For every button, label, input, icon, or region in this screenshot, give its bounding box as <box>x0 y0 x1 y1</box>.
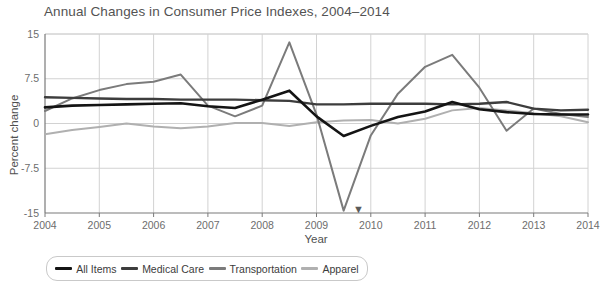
x-tick-label: 2006 <box>142 219 166 231</box>
x-tick-label: 2011 <box>414 219 437 231</box>
y-tick-label: -15 <box>24 207 39 219</box>
legend-label: Apparel <box>322 263 358 275</box>
x-tick-label: 2009 <box>305 219 329 231</box>
x-tick-label: 2008 <box>251 219 275 231</box>
x-axis-ticks: 2004200520062007200820092010201120122013… <box>33 213 600 231</box>
plot-area: 157.50-7.5-15 20042005200620072008200920… <box>0 0 603 245</box>
legend-label: All Items <box>76 263 116 275</box>
line-chart-svg: 157.50-7.5-15 20042005200620072008200920… <box>0 0 603 245</box>
legend-swatch-icon <box>301 267 318 270</box>
x-tick-label: 2005 <box>88 219 112 231</box>
y-axis-title: Percent change <box>8 95 20 176</box>
legend-item[interactable]: Medical Care <box>121 263 204 275</box>
x-tick-label: 2014 <box>576 219 600 231</box>
x-tick-label: 2004 <box>33 219 57 231</box>
y-axis-ticks: 157.50-7.5-15 <box>21 28 39 219</box>
chart-figure: Annual Changes in Consumer Price Indexes… <box>0 0 603 291</box>
legend-swatch-icon <box>121 267 138 270</box>
y-tick-label: 7.5 <box>24 72 39 84</box>
legend-item[interactable]: Apparel <box>301 263 358 275</box>
y-tick-label: -7.5 <box>21 162 39 174</box>
x-axis-title: Year <box>304 233 327 245</box>
y-tick-label: 0 <box>33 117 39 129</box>
x-tick-label: 2007 <box>196 219 220 231</box>
legend-item[interactable]: All Items <box>55 263 116 275</box>
legend-swatch-icon <box>209 267 226 270</box>
chart-legend[interactable]: All ItemsMedical CareTransportationAppar… <box>46 256 368 281</box>
legend-item[interactable]: Transportation <box>209 263 297 275</box>
y-tick-label: 15 <box>27 28 39 40</box>
legend-label: Transportation <box>230 263 297 275</box>
x-tick-label: 2013 <box>522 219 546 231</box>
legend-swatch-icon <box>55 267 72 270</box>
x-tick-label: 2010 <box>359 219 383 231</box>
legend-label: Medical Care <box>142 263 204 275</box>
x-tick-label: 2012 <box>468 219 492 231</box>
mouse-cursor-icon: ▼ <box>353 204 364 215</box>
